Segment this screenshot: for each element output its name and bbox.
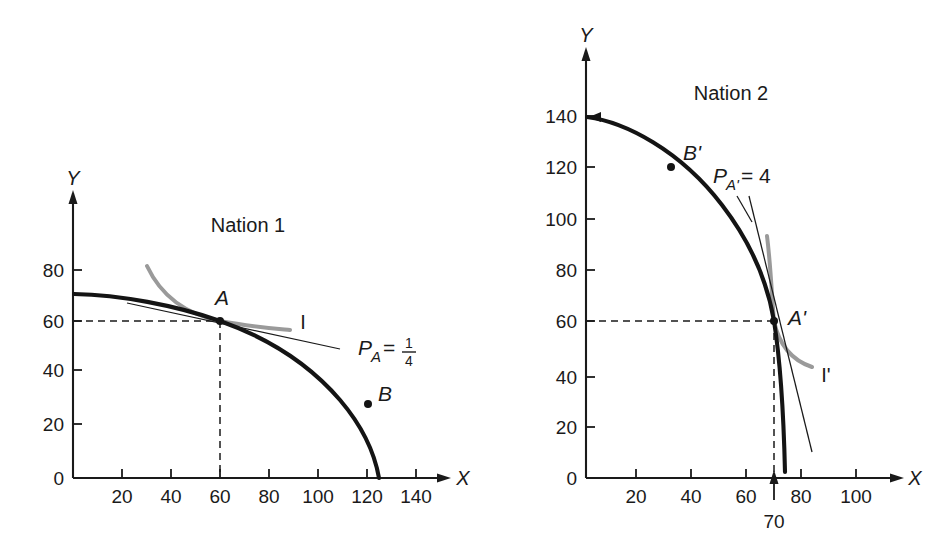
chart-nation-1: Y X Nation 1 0 20 40 60 80 xyxy=(43,167,470,507)
y-tick-label: 40 xyxy=(556,367,577,388)
x-tick-label: 20 xyxy=(625,486,646,507)
point-A-prime-label: A' xyxy=(786,306,807,329)
point-B-prime-marker xyxy=(667,163,675,171)
point-A-marker xyxy=(216,317,224,325)
y-ticks-nation-1 xyxy=(73,270,82,478)
chart-title-nation-1: Nation 1 xyxy=(211,214,286,236)
y-tick-label: 20 xyxy=(43,414,64,435)
axis-start-arrow-nation-2 xyxy=(589,112,601,122)
point-A-label: A xyxy=(213,286,229,309)
y-tick-label: 80 xyxy=(556,260,577,281)
y-tick-label: 60 xyxy=(43,311,64,332)
x-ticks-nation-2 xyxy=(636,469,856,478)
point-A-prime-marker xyxy=(770,317,778,325)
x-tick-label: 80 xyxy=(258,486,279,507)
y-axis-label-nation-1: Y xyxy=(66,167,81,189)
y-ticks-nation-2 xyxy=(586,116,595,478)
y-axis-nation-2 xyxy=(582,47,591,478)
price-equals: = 4 xyxy=(741,164,771,187)
y-tick-label: 0 xyxy=(53,468,64,489)
x-tick-label: 140 xyxy=(400,486,432,507)
price-equals: = xyxy=(383,336,395,359)
x-tick-label: 80 xyxy=(790,486,811,507)
x-tick-label: 100 xyxy=(840,486,872,507)
point-B-label: B xyxy=(378,382,392,405)
tangent-line-nation-1 xyxy=(127,303,340,349)
y-tick-label: 60 xyxy=(556,311,577,332)
point-B-prime-label: B' xyxy=(683,141,702,164)
y-axis-label-nation-2: Y xyxy=(579,24,594,46)
x-callout-label: 70 xyxy=(763,511,784,532)
x-tick-label: 40 xyxy=(160,486,181,507)
y-axis-nation-1 xyxy=(69,190,78,478)
dashed-guides-nation-2 xyxy=(587,321,774,472)
price-symbol: P xyxy=(358,336,372,359)
economics-ppf-figure: Y X Nation 1 0 20 40 60 80 xyxy=(0,0,942,549)
x-tick-label: 120 xyxy=(351,486,383,507)
x-tick-label: 100 xyxy=(302,486,334,507)
price-label-nation-1: P A = 1 4 xyxy=(358,335,416,369)
x-ticks-nation-1 xyxy=(122,469,416,478)
dashed-guides-nation-1 xyxy=(74,321,220,478)
indifference-curve-label-I-prime: I' xyxy=(821,364,830,386)
price-subscript: A' xyxy=(725,176,740,193)
price-numerator: 1 xyxy=(405,335,413,351)
y-tick-label: 100 xyxy=(545,209,577,230)
x-tick-label: 60 xyxy=(735,486,756,507)
x-tick-label: 20 xyxy=(111,486,132,507)
y-tick-label: 140 xyxy=(545,106,577,127)
price-label-nation-2: P A' = 4 xyxy=(713,164,771,222)
x-tick-label: 60 xyxy=(209,486,230,507)
y-tick-label: 40 xyxy=(43,360,64,381)
y-tick-label: 120 xyxy=(545,157,577,178)
point-B-marker xyxy=(364,400,372,408)
x-axis-label-nation-1: X xyxy=(455,467,470,489)
indifference-curve-label-I: I xyxy=(300,311,306,333)
x-axis-label-nation-2: X xyxy=(907,467,922,489)
x-axis-nation-1 xyxy=(73,474,451,483)
ppf-curve-nation-1 xyxy=(74,294,379,478)
chart-nation-2: Y X Nation 2 0 20 40 60 80 100 120 140 xyxy=(545,24,922,532)
x-callout-70: 70 xyxy=(763,470,784,532)
price-symbol: P xyxy=(713,164,727,187)
y-tick-label: 20 xyxy=(556,417,577,438)
chart-title-nation-2: Nation 2 xyxy=(694,82,769,104)
price-denominator: 4 xyxy=(405,353,413,369)
x-tick-label: 40 xyxy=(680,486,701,507)
price-subscript: A xyxy=(370,348,381,365)
y-tick-label: 0 xyxy=(566,468,577,489)
y-tick-label: 80 xyxy=(43,260,64,281)
